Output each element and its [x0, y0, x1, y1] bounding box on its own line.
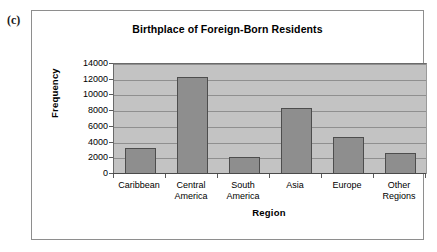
x-axis-tick-mark	[373, 174, 374, 178]
x-axis-category-label: Other Regions	[373, 180, 425, 202]
x-axis-tick-mark	[165, 174, 166, 178]
y-axis-tick-labels: 14000120001000080006000400020000	[60, 11, 108, 239]
x-axis-category-label: Europe	[321, 180, 373, 191]
bar	[281, 108, 312, 174]
y-axis-tick-label: 12000	[66, 75, 108, 84]
plot-area	[113, 63, 427, 174]
gridline	[114, 158, 426, 159]
bar	[125, 148, 156, 174]
y-axis-tick-mark	[109, 110, 113, 111]
y-axis-title: Frequency	[49, 68, 60, 118]
y-axis-tick-label: 10000	[66, 90, 108, 99]
gridline	[114, 111, 426, 112]
y-axis-tick-mark	[109, 157, 113, 158]
gridline	[114, 95, 426, 96]
y-axis-tick-mark	[109, 94, 113, 95]
y-axis-tick-mark	[109, 63, 113, 64]
y-axis-tick-mark	[109, 126, 113, 127]
x-axis-tick-mark	[217, 174, 218, 178]
bar	[229, 157, 260, 174]
panel-label: (c)	[7, 13, 20, 28]
bar	[385, 153, 416, 174]
y-axis-tick-label: 6000	[66, 122, 108, 131]
y-axis-tick-label: 2000	[66, 153, 108, 162]
y-axis-tick-label: 8000	[66, 106, 108, 115]
x-axis-category-label: Asia	[269, 180, 321, 191]
y-axis-tick-label: 14000	[66, 59, 108, 68]
gridline	[114, 127, 426, 128]
x-axis-category-label: South America	[217, 180, 269, 202]
gridline	[114, 143, 426, 144]
bar	[333, 137, 364, 174]
x-axis-tick-mark	[425, 174, 426, 178]
y-axis-tick-mark	[109, 79, 113, 80]
x-axis-category-label: Caribbean	[113, 180, 165, 191]
gridline	[114, 80, 426, 81]
y-axis-tick-label: 4000	[66, 138, 108, 147]
gridlines	[114, 64, 426, 174]
x-axis-tick-mark	[113, 174, 114, 178]
y-axis-tick-mark	[109, 142, 113, 143]
bar	[177, 77, 208, 174]
x-axis-tick-mark	[321, 174, 322, 178]
gridline	[114, 64, 426, 65]
x-axis-tick-mark	[269, 174, 270, 178]
x-axis-category-label: Central America	[165, 180, 217, 202]
chart-frame: Birthplace of Foreign-Born Residents Fre…	[31, 10, 424, 240]
x-axis-title: Region	[113, 207, 425, 218]
figure-panel: (c) Birthplace of Foreign-Born Residents…	[0, 0, 437, 252]
y-axis-tick-label: 0	[66, 169, 108, 178]
